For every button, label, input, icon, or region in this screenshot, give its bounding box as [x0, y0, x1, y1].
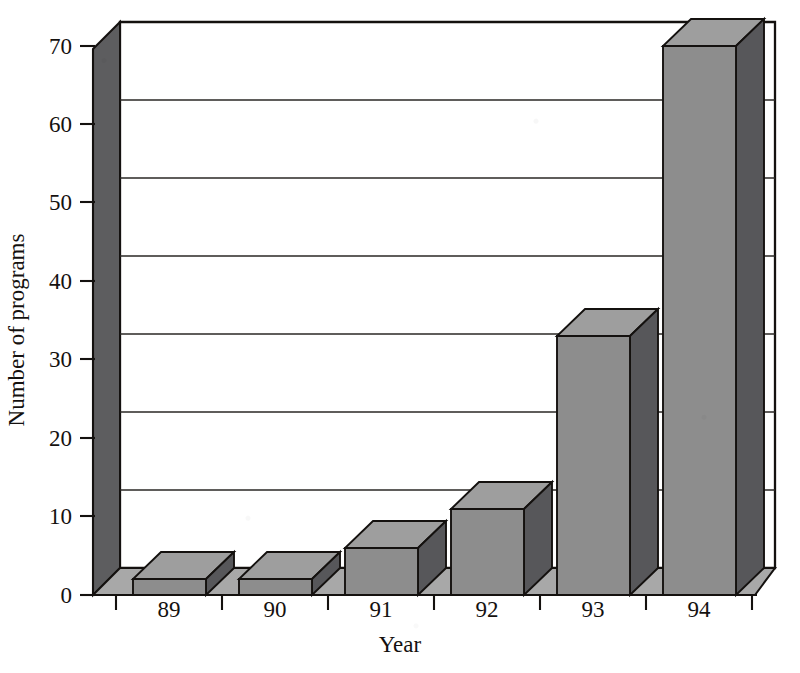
- x-tick-label-92: 92: [476, 597, 499, 622]
- x-tick-label-90: 90: [264, 597, 287, 622]
- y-tick-label-10: 10: [49, 504, 72, 529]
- y-tick-label-20: 20: [49, 426, 72, 451]
- x-tick-label-89: 89: [158, 597, 181, 622]
- bar-89-front: [133, 579, 206, 595]
- y-tick-label-70: 70: [49, 34, 72, 59]
- x-tick-label-93: 93: [582, 597, 605, 622]
- bar-93-front: [557, 336, 630, 595]
- x-axis-title: Year: [379, 632, 422, 657]
- y-tick-labels: 70 60 50 40 30 20 10 0: [49, 34, 72, 608]
- bar-92-front: [451, 509, 524, 595]
- plot-left-wall: [93, 22, 120, 595]
- x-tick-marks: [116, 595, 752, 610]
- bar-90-front: [239, 579, 312, 595]
- bar-93[interactable]: [557, 309, 658, 595]
- chart-canvas: 70 60 50 40 30 20 10 0 89 90 91 92 93: [0, 0, 800, 673]
- x-tick-label-94: 94: [688, 597, 712, 622]
- y-tick-label-0: 0: [61, 583, 73, 608]
- bar-94[interactable]: [663, 19, 764, 595]
- bar-94-side: [736, 19, 764, 595]
- y-tick-label-40: 40: [49, 269, 72, 294]
- bar-91-front: [345, 548, 418, 595]
- x-tick-label-91: 91: [370, 597, 393, 622]
- y-axis-title: Number of programs: [4, 234, 29, 427]
- y-tick-label-60: 60: [49, 112, 72, 137]
- bar-91[interactable]: [345, 521, 446, 595]
- bar-93-side: [630, 309, 658, 595]
- bar-chart-figure: 70 60 50 40 30 20 10 0 89 90 91 92 93: [0, 0, 800, 673]
- bar-94-front: [663, 46, 736, 595]
- bar-92[interactable]: [451, 482, 552, 595]
- y-tick-label-30: 30: [49, 347, 72, 372]
- y-tick-label-50: 50: [49, 190, 72, 215]
